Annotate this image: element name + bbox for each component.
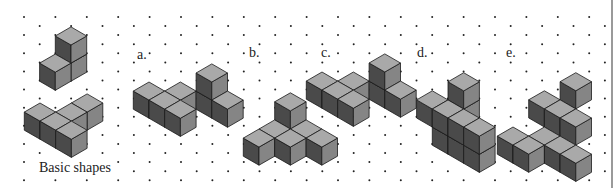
option-label-b: b.	[248, 46, 261, 60]
option-d	[417, 73, 496, 173]
option-label-c: c.	[320, 46, 332, 60]
basic-shape-2	[24, 94, 103, 157]
basic-shapes-caption: Basic shapes	[38, 161, 112, 175]
option-label-e: e.	[505, 46, 517, 60]
option-c	[306, 54, 416, 127]
figure-border	[611, 0, 613, 188]
option-e	[497, 73, 591, 182]
option-label-a: a.	[136, 48, 148, 62]
option-label-d: d.	[416, 46, 429, 60]
basic-shape-1	[40, 27, 87, 90]
